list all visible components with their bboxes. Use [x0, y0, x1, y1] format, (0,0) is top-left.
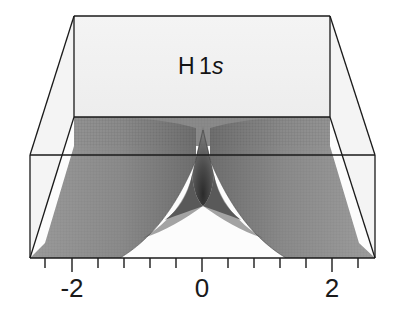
orbital-surface-plot: -2 0 2 H 1 s: [0, 0, 404, 314]
orbital-label-shell: 1: [199, 53, 212, 79]
figure-root: -2 0 2 H 1 s: [0, 0, 404, 314]
axis-tick-label-zero: 0: [195, 273, 209, 303]
orbital-label-orbital: s: [212, 53, 224, 79]
orbital-label: H 1 s: [178, 53, 224, 79]
orbital-surface: [31, 117, 374, 258]
axis-ticks: [45, 258, 358, 272]
axis-tick-label-neg2: -2: [60, 273, 83, 303]
orbital-label-element: H: [178, 53, 195, 79]
axis-tick-labels: -2 0 2: [60, 273, 339, 303]
axis-tick-label-pos2: 2: [325, 273, 339, 303]
